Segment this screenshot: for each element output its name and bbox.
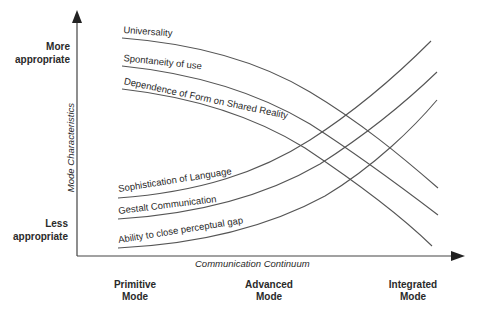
x-tick-integrated: Integrated Mode (373, 279, 453, 303)
x-axis-arrow-icon (451, 251, 465, 261)
x-tick-primitive: Primitive Mode (95, 279, 175, 303)
y-top-label: More appropriate (0, 40, 70, 66)
x-tick-integrated-line2: Mode (373, 291, 453, 303)
x-tick-advanced: Advanced Mode (229, 279, 309, 303)
y-bottom-label-line2: appropriate (0, 230, 68, 243)
x-tick-advanced-line2: Mode (229, 291, 309, 303)
y-top-label-line1: More (0, 40, 70, 53)
x-tick-advanced-line1: Advanced (229, 279, 309, 291)
y-bottom-label-line1: Less (0, 217, 68, 230)
y-axis-title: Mode Characteristics (65, 93, 76, 203)
y-axis-arrow-icon (72, 10, 82, 23)
x-axis-title: Communication Continuum (195, 258, 310, 269)
y-top-label-line2: appropriate (0, 53, 70, 66)
x-tick-primitive-line2: Mode (95, 291, 175, 303)
x-tick-integrated-line1: Integrated (373, 279, 453, 291)
x-tick-primitive-line1: Primitive (95, 279, 175, 291)
y-bottom-label: Less appropriate (0, 217, 68, 243)
